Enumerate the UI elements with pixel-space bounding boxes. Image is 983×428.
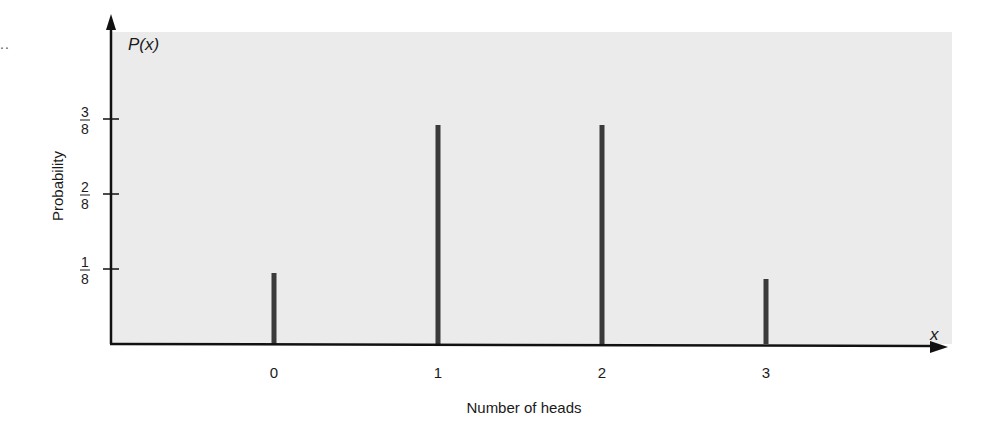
- y-axis-symbol: P(x): [128, 35, 159, 54]
- plot-background: [111, 32, 952, 344]
- y-axis-arrow-icon: [106, 14, 116, 30]
- bar-x-3: [764, 279, 769, 344]
- x-axis-title: Number of heads: [466, 399, 581, 416]
- x-tick-label: 3: [762, 364, 770, 381]
- y-tick-denominator: 8: [81, 271, 89, 287]
- y-tick-numerator: 2: [81, 179, 89, 195]
- x-tick-label: 0: [270, 364, 278, 381]
- x-tick-label: 1: [434, 364, 442, 381]
- y-tick-denominator: 8: [81, 121, 89, 137]
- bar-x-1: [436, 125, 441, 344]
- bar-x-2: [600, 125, 605, 344]
- y-tick-denominator: 8: [81, 196, 89, 212]
- probability-distribution-chart: 1828380123Number of headsProbabilityP(x)…: [0, 0, 983, 428]
- y-axis-title: Probability: [49, 150, 66, 221]
- bar-x-0: [272, 273, 277, 344]
- x-axis-line: [110, 344, 936, 346]
- y-tick-numerator: 1: [81, 254, 89, 270]
- x-axis-symbol: x: [929, 325, 939, 344]
- y-tick-numerator: 3: [81, 104, 89, 120]
- x-tick-label: 2: [598, 364, 606, 381]
- plot-panel: [111, 32, 952, 344]
